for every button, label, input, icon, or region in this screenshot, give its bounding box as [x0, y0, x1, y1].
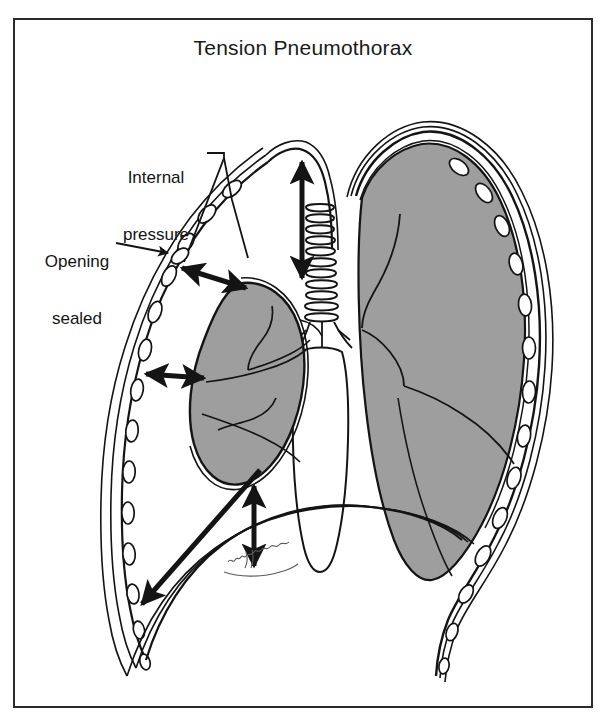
label-opening-sealed-line1: Opening — [16, 252, 138, 271]
label-internal-pressure-line1: Internal — [96, 168, 216, 187]
collapsed-lung-shape — [190, 283, 304, 485]
right-hemithorax — [347, 122, 553, 682]
artist-signature — [224, 542, 298, 576]
arrow-lower-diagonal — [142, 470, 260, 604]
label-opening-sealed: Opening sealed — [16, 214, 138, 366]
label-opening-sealed-line2: sealed — [16, 309, 138, 328]
figure-root: Tension Pneumothorax — [0, 0, 604, 719]
leader-internal-pressure-branch — [224, 158, 248, 258]
trachea — [305, 204, 338, 322]
